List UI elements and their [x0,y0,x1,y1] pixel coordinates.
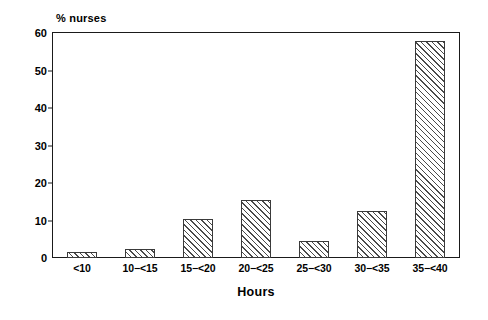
bar-slot [343,33,401,258]
y-tick-label: 20 [6,177,52,189]
y-axis-label: % nurses [56,12,107,24]
bar [241,200,271,258]
histogram-chart: % nurses 0102030405060 <1010−<1515−<2020… [0,0,488,320]
y-tick-label: 60 [6,27,52,39]
x-tick-label: 30−<35 [343,262,401,274]
x-tick-label: 15−<20 [169,262,227,274]
x-tick-label: 35−<40 [401,262,459,274]
bar-slot [169,33,227,258]
bar [415,41,445,259]
x-tick-label: <10 [53,262,111,274]
bar [299,241,329,258]
y-tick-mark [48,183,52,184]
y-axis-tick-labels: 0102030405060 [0,32,52,258]
x-axis-title: Hours [53,285,459,299]
y-tick-mark [48,70,52,71]
bar [125,249,155,258]
bar-slot [401,33,459,258]
x-axis-tick-labels: <1010−<1515−<2020−<2525−<3030−<3535−<40 [53,262,459,282]
bar-slot [285,33,343,258]
y-tick-mark [48,108,52,109]
y-tick-label: 10 [6,215,52,227]
y-tick-label: 40 [6,102,52,114]
bar [67,252,97,258]
y-tick-label: 50 [6,65,52,77]
x-tick-label: 10−<15 [111,262,169,274]
bar-slot [53,33,111,258]
x-tick-label: 20−<25 [227,262,285,274]
x-tick-label: 25−<30 [285,262,343,274]
bar [357,211,387,258]
y-tick-mark [48,145,52,146]
bar [183,219,213,258]
bars-container [53,33,459,258]
y-tick-mark [48,220,52,221]
y-tick-label: 30 [6,140,52,152]
y-tick-label: 0 [6,252,52,264]
bar-slot [111,33,169,258]
bar-slot [227,33,285,258]
